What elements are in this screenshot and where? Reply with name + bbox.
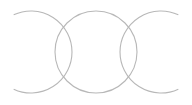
left-ring-arc (14, 11, 72, 93)
interlocking-circles-diagram (0, 0, 192, 105)
right-ring-arc (120, 11, 178, 93)
center-ring-circle (55, 11, 137, 93)
